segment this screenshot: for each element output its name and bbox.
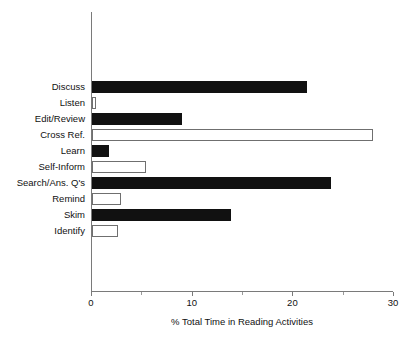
bar-search-ans-q-s <box>92 177 331 189</box>
bar-remind <box>92 193 121 205</box>
x-tick-label: 10 <box>177 297 207 308</box>
category-label: Search/Ans. Q's <box>0 176 85 189</box>
bar-row: Remind <box>0 191 412 207</box>
x-tick-minor <box>141 292 142 295</box>
plot-area: DiscussListenEdit/ReviewCross Ref.LearnS… <box>0 79 412 239</box>
category-label: Edit/Review <box>0 112 85 125</box>
bar-row: Search/Ans. Q's <box>0 175 412 191</box>
x-tick-label: 0 <box>76 297 106 308</box>
x-tick-label: 30 <box>378 297 408 308</box>
bar-row: Edit/Review <box>0 111 412 127</box>
category-label: Listen <box>0 96 85 109</box>
x-tick-label: 20 <box>277 297 307 308</box>
category-label: Cross Ref. <box>0 128 85 141</box>
x-tick-major <box>292 292 293 296</box>
bar-listen <box>92 97 96 109</box>
bar-row: Skim <box>0 207 412 223</box>
bar-self-inform <box>92 161 146 173</box>
x-tick-major <box>192 292 193 296</box>
category-label: Discuss <box>0 80 85 93</box>
x-axis-title: % Total Time in Reading Activities <box>91 316 393 328</box>
bar-edit-review <box>92 113 182 125</box>
x-tick-minor <box>343 292 344 295</box>
x-tick-major <box>91 292 92 296</box>
bar-row: Identify <box>0 223 412 239</box>
x-tick-minor <box>242 292 243 295</box>
bar-skim <box>92 209 231 221</box>
category-label: Learn <box>0 144 85 157</box>
bar-row: Cross Ref. <box>0 127 412 143</box>
category-label: Self-Inform <box>0 160 85 173</box>
category-label: Remind <box>0 192 85 205</box>
bar-row: Self-Inform <box>0 159 412 175</box>
bar-row: Learn <box>0 143 412 159</box>
bar-row: Listen <box>0 95 412 111</box>
bar-row: Discuss <box>0 79 412 95</box>
x-tick-major <box>393 292 394 296</box>
category-label: Identify <box>0 224 85 237</box>
bar-discuss <box>92 81 307 93</box>
bar-identify <box>92 225 118 237</box>
category-label: Skim <box>0 208 85 221</box>
bar-cross-ref <box>92 129 373 141</box>
bar-learn <box>92 145 109 157</box>
bar-chart: DiscussListenEdit/ReviewCross Ref.LearnS… <box>0 0 412 345</box>
